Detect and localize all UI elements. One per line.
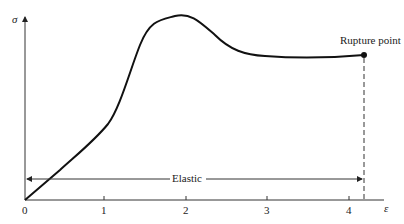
tick-label-1: 1 (101, 205, 107, 216)
tick-label-3: 3 (264, 205, 270, 216)
rupture-point-marker (361, 52, 367, 58)
tick-label-4: 4 (346, 205, 352, 216)
y-axis-label: σ (12, 14, 17, 25)
elastic-label: Elastic (172, 173, 202, 184)
tick-label-2: 2 (183, 205, 189, 216)
rupture-point-label: Rupture point (340, 35, 401, 46)
stress-strain-diagram: σ ε Rupture point Elastic 0 1 2 3 4 (0, 0, 404, 224)
x-ticks (104, 196, 349, 200)
x-axis-label: ε (384, 203, 388, 214)
tick-label-0: 0 (22, 205, 28, 216)
